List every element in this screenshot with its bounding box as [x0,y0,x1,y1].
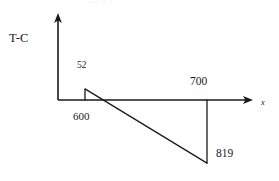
y-axis-label: T-C [9,32,29,45]
annotation-peak-52: 52 [77,61,87,71]
tc-diagram-figure [0,0,279,181]
annotation-start-600: 600 [73,111,90,122]
annotation-end-819: 819 [216,148,233,160]
x-axis-label: x [261,98,265,107]
diagram-canvas: 2 2 0 2 T-C x 52 600 700 819 [0,0,279,181]
annotation-mid-700: 700 [190,76,207,88]
